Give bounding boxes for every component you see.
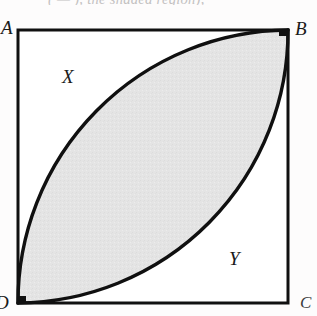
figure-canvas <box>0 0 317 316</box>
corner-ink-B <box>279 29 289 36</box>
vertex-label-C: C <box>300 294 311 311</box>
region-label-X: X <box>62 67 74 86</box>
region-label-Y: Y <box>229 249 240 268</box>
vertex-label-A: A <box>1 18 13 37</box>
geometry-figure: ( — ), the shaded region), A B C D <box>0 0 317 316</box>
corner-ink-D <box>17 296 26 304</box>
vertex-label-B: B <box>295 19 307 38</box>
vertex-label-D: D <box>0 293 9 312</box>
